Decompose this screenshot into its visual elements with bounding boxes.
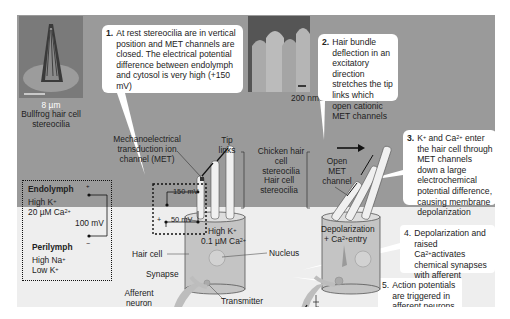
svg-text:−: − bbox=[86, 240, 90, 247]
hair-cell-label: Hair cell bbox=[132, 249, 162, 259]
tip-links-label: Tip links bbox=[216, 135, 238, 155]
cytosol-k: High K+ bbox=[208, 226, 236, 236]
svg-text:+: + bbox=[86, 183, 90, 189]
voltage-50mv: 50 mV bbox=[171, 215, 192, 225]
cytosol-ca: 0.1 µM Ca2+ bbox=[201, 236, 246, 246]
ca-entry-label: + Ca2+entry bbox=[324, 234, 367, 244]
diagram-panel: 8 µm Bullfrog hair cell stereocilia 1. A… bbox=[17, 15, 495, 307]
plus-sign-50mv: + bbox=[157, 215, 161, 225]
depolarization-label: Depolarization bbox=[321, 224, 375, 234]
synapse-label: Synapse bbox=[146, 269, 179, 279]
nucleus-label: Nucleus bbox=[269, 248, 299, 258]
met-channel-label: Mechanoelectrical transduction ion chann… bbox=[109, 134, 185, 164]
chicken-caption: Chicken hair cell stereocilia bbox=[256, 146, 306, 176]
voltage-150mv: 150 mV bbox=[173, 187, 198, 197]
hair-cell-stereocilia-label: Hair cell stereocilia bbox=[258, 175, 300, 195]
afferent-neuron-label: Afferent neuron bbox=[120, 288, 158, 307]
release-site-label: Transmitter release site bbox=[213, 296, 271, 307]
open-met-label: Open MET channel bbox=[319, 156, 355, 186]
